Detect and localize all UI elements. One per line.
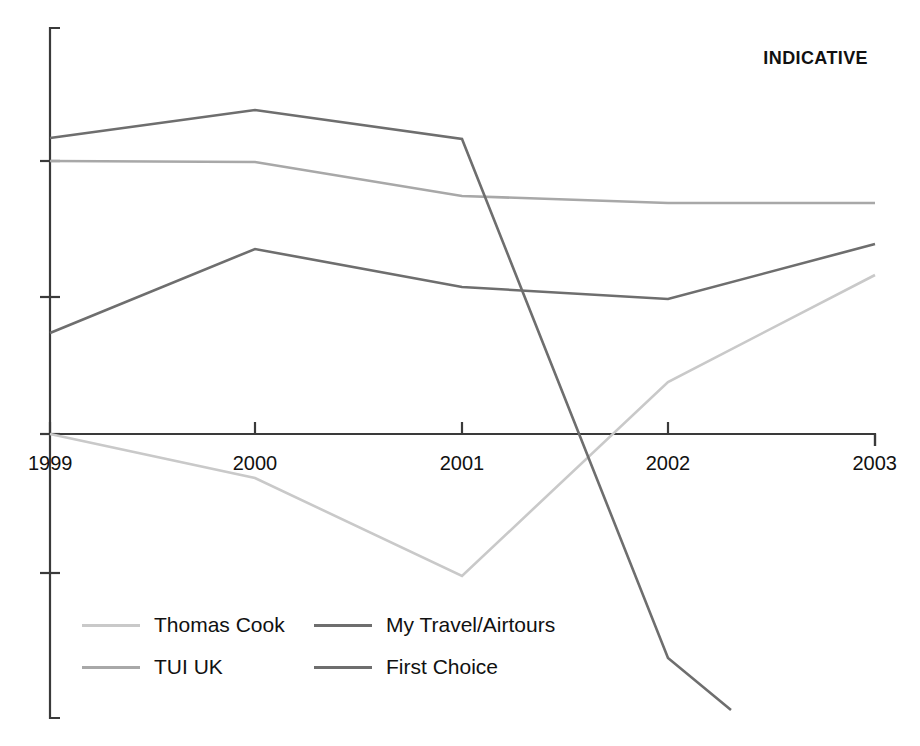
legend-swatch-thomas-cook bbox=[82, 624, 140, 627]
chart-legend: Thomas Cook My Travel/Airtours TUI UK Fi… bbox=[82, 604, 602, 688]
x-axis bbox=[50, 434, 875, 446]
legend-label-my-travel-airtours: My Travel/Airtours bbox=[386, 613, 555, 637]
legend-item-tui-uk[interactable]: TUI UK bbox=[82, 655, 314, 679]
legend-label-tui-uk: TUI UK bbox=[154, 655, 223, 679]
x-tick-label-2002: 2002 bbox=[646, 452, 691, 474]
legend-label-thomas-cook: Thomas Cook bbox=[154, 613, 285, 637]
legend-item-my-travel-airtours[interactable]: My Travel/Airtours bbox=[314, 613, 554, 637]
x-tick-label-1999: 1999 bbox=[28, 452, 73, 474]
legend-swatch-my-travel-airtours bbox=[314, 624, 372, 627]
legend-item-thomas-cook[interactable]: Thomas Cook bbox=[82, 613, 314, 637]
legend-swatch-first-choice bbox=[314, 666, 372, 669]
x-axis-tick-labels: 19992000200120022003 bbox=[28, 452, 897, 474]
series-line-my-travel-airtours bbox=[50, 244, 875, 333]
x-tick-label-2001: 2001 bbox=[440, 452, 485, 474]
y-axis bbox=[50, 28, 60, 718]
series-line-tui-uk bbox=[50, 161, 875, 203]
legend-swatch-tui-uk bbox=[82, 666, 140, 669]
legend-label-first-choice: First Choice bbox=[386, 655, 498, 679]
legend-item-first-choice[interactable]: First Choice bbox=[314, 655, 554, 679]
x-tick-label-2003: 2003 bbox=[853, 452, 898, 474]
chart-container: INDICATIVE 19992000200120022003 Thomas C… bbox=[0, 0, 920, 746]
x-tick-label-2000: 2000 bbox=[233, 452, 278, 474]
